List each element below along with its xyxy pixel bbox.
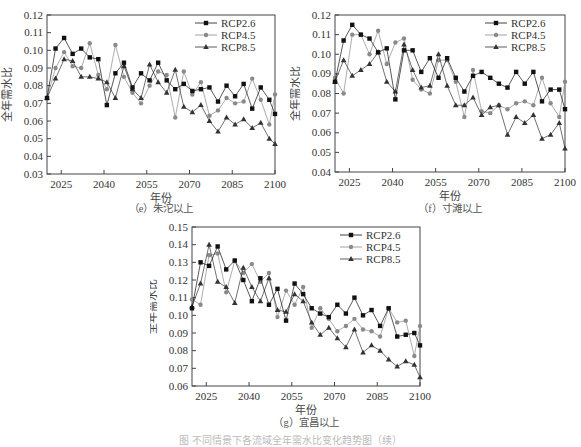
x-tick-label: 2055 bbox=[425, 176, 448, 188]
circle-marker-icon bbox=[378, 334, 382, 338]
circle-marker-icon bbox=[275, 315, 279, 319]
square-marker-icon bbox=[301, 292, 305, 296]
triangle-marker-icon bbox=[562, 145, 568, 150]
triangle-marker-icon bbox=[539, 136, 545, 141]
y-tick-label: 0.09 bbox=[24, 62, 44, 74]
circle-marker-icon bbox=[523, 99, 527, 103]
triangle-marker-icon bbox=[172, 67, 178, 72]
y-tick-label: 0.07 bbox=[312, 107, 332, 119]
square-marker-icon bbox=[445, 56, 449, 60]
square-marker-icon bbox=[241, 278, 245, 282]
square-marker-icon bbox=[250, 106, 254, 110]
x-tick-label: 2100 bbox=[409, 390, 432, 402]
square-marker-icon bbox=[207, 264, 211, 268]
circle-marker-icon bbox=[122, 75, 126, 79]
triangle-marker-icon bbox=[300, 298, 306, 303]
circle-marker-icon bbox=[402, 36, 406, 40]
square-marker-icon bbox=[505, 85, 509, 89]
square-marker-icon bbox=[335, 303, 339, 307]
circle-marker-icon bbox=[412, 354, 416, 358]
triangle-marker-icon bbox=[232, 122, 238, 127]
square-marker-icon bbox=[557, 87, 561, 91]
triangle-marker-icon bbox=[531, 112, 537, 117]
x-tick-label: 2040 bbox=[238, 390, 261, 402]
triangle-marker-icon bbox=[87, 74, 93, 79]
square-marker-icon bbox=[531, 70, 535, 74]
y-tick-label: 0.12 bbox=[24, 9, 43, 21]
square-marker-icon bbox=[497, 81, 501, 85]
square-marker-icon bbox=[404, 333, 408, 337]
circle-marker-icon bbox=[548, 101, 552, 105]
square-marker-icon bbox=[165, 78, 169, 82]
square-marker-icon bbox=[310, 306, 314, 310]
circle-marker-icon bbox=[395, 320, 399, 324]
triangle-marker-icon bbox=[147, 61, 153, 66]
triangle-marker-icon bbox=[61, 56, 67, 61]
triangle-marker-icon bbox=[360, 349, 366, 354]
square-marker-icon bbox=[45, 96, 49, 100]
circle-marker-icon bbox=[207, 114, 211, 118]
triangle-marker-icon bbox=[556, 120, 562, 125]
triangle-marker-icon bbox=[352, 326, 358, 331]
square-marker-icon bbox=[215, 244, 219, 248]
circle-marker-icon bbox=[352, 317, 356, 321]
triangle-marker-icon bbox=[78, 74, 84, 79]
circle-marker-icon bbox=[216, 108, 220, 112]
square-marker-icon bbox=[267, 303, 271, 307]
triangle-marker-icon bbox=[326, 325, 332, 330]
square-marker-icon bbox=[367, 36, 371, 40]
x-tick-label: 2100 bbox=[264, 178, 287, 190]
square-marker-icon bbox=[258, 276, 262, 280]
y-axis-label: 全年需水比 bbox=[290, 66, 301, 121]
triangle-marker-icon bbox=[444, 83, 450, 88]
circle-marker-icon bbox=[393, 40, 397, 44]
x-tick-label: 2070 bbox=[179, 178, 202, 190]
circle-marker-icon bbox=[173, 115, 177, 119]
legend-label: RCP2.6 bbox=[511, 17, 546, 29]
triangle-marker-icon bbox=[249, 284, 255, 289]
circle-marker-icon bbox=[204, 33, 208, 37]
circle-marker-icon bbox=[198, 303, 202, 307]
circle-marker-icon bbox=[259, 98, 263, 102]
square-marker-icon bbox=[198, 260, 202, 264]
legend-label: RCP2.6 bbox=[221, 17, 256, 29]
square-marker-icon bbox=[523, 81, 527, 85]
square-marker-icon bbox=[173, 87, 177, 91]
square-marker-icon bbox=[548, 87, 552, 91]
square-marker-icon bbox=[412, 331, 416, 335]
square-marker-icon bbox=[494, 21, 498, 25]
circle-marker-icon bbox=[418, 324, 422, 328]
circle-marker-icon bbox=[367, 52, 371, 56]
circle-marker-icon bbox=[224, 96, 228, 100]
x-tick-label: 2025 bbox=[50, 178, 73, 190]
x-tick-label: 2025 bbox=[195, 390, 218, 402]
circle-marker-icon bbox=[349, 245, 353, 249]
square-marker-icon bbox=[419, 70, 423, 74]
square-marker-icon bbox=[471, 74, 475, 78]
triangle-marker-icon bbox=[436, 51, 442, 56]
square-marker-icon bbox=[182, 82, 186, 86]
circle-marker-icon bbox=[376, 29, 380, 33]
square-marker-icon bbox=[386, 306, 390, 310]
triangle-marker-icon bbox=[384, 79, 390, 84]
y-tick-label: 0.06 bbox=[24, 115, 44, 127]
triangle-marker-icon bbox=[401, 41, 407, 46]
square-marker-icon bbox=[275, 287, 279, 291]
square-marker-icon bbox=[216, 99, 220, 103]
square-marker-icon bbox=[344, 311, 348, 315]
circle-marker-icon bbox=[350, 32, 354, 36]
triangle-marker-icon bbox=[309, 319, 315, 324]
triangle-marker-icon bbox=[241, 265, 247, 270]
circle-marker-icon bbox=[361, 327, 365, 331]
square-marker-icon bbox=[199, 87, 203, 91]
circle-marker-icon bbox=[250, 76, 254, 80]
y-tick-label: 0.07 bbox=[24, 97, 44, 109]
triangle-marker-icon bbox=[470, 94, 476, 99]
square-marker-icon bbox=[327, 315, 331, 319]
figure-caption: 图 不同情景下各流域全年需水比变化趋势图（续） bbox=[0, 432, 581, 447]
circle-marker-icon bbox=[341, 91, 345, 95]
square-marker-icon bbox=[79, 46, 83, 50]
square-marker-icon bbox=[410, 48, 414, 52]
triangle-marker-icon bbox=[349, 73, 355, 78]
y-tick-label: 0.11 bbox=[312, 28, 331, 40]
